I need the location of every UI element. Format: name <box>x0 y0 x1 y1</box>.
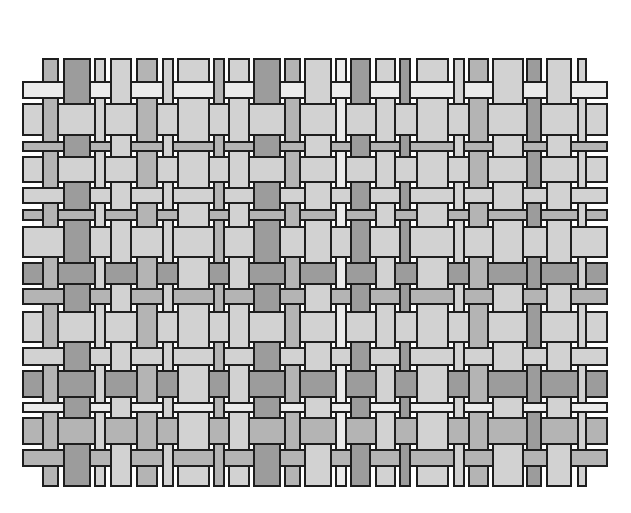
weft-over-crossing <box>374 187 397 204</box>
weft-over-crossing <box>374 402 397 413</box>
weft-over-crossing <box>334 187 348 204</box>
weft-over-crossing <box>545 103 573 136</box>
weft-over-crossing <box>415 347 450 366</box>
weft-over-crossing <box>525 347 543 366</box>
weft-over-crossing <box>212 262 226 285</box>
weft-over-crossing <box>452 156 466 183</box>
weft-over-crossing <box>283 141 302 152</box>
weft-over-crossing <box>283 449 302 467</box>
weft-over-crossing <box>109 156 133 183</box>
weft-over-crossing <box>545 209 573 221</box>
weft-over-crossing <box>41 347 60 366</box>
weft-over-crossing <box>62 103 92 136</box>
weft-over-crossing <box>283 187 302 204</box>
weft-over-crossing <box>545 311 573 343</box>
weft-over-crossing <box>252 262 282 285</box>
weft-over-crossing <box>176 187 211 204</box>
weft-over-crossing <box>176 347 211 366</box>
weft-over-crossing <box>374 141 397 152</box>
weft-over-crossing <box>398 156 412 183</box>
weft-over-crossing <box>374 449 397 467</box>
weft-over-crossing <box>135 288 159 305</box>
weft-over-crossing <box>576 402 588 413</box>
warp-strip <box>228 58 250 487</box>
weft-over-crossing <box>576 187 588 204</box>
weft-over-crossing <box>62 311 92 343</box>
weft-over-crossing <box>283 226 302 258</box>
weft-over-crossing <box>109 209 133 221</box>
warp-strip <box>416 58 449 487</box>
weft-over-crossing <box>491 417 525 445</box>
weft-over-crossing <box>62 417 92 445</box>
weft-over-crossing <box>252 156 282 183</box>
weft-over-crossing <box>452 417 466 445</box>
weft-over-crossing <box>41 288 60 305</box>
weft-over-crossing <box>491 103 525 136</box>
weft-over-crossing <box>398 417 412 445</box>
weft-over-crossing <box>41 226 60 258</box>
weft-over-crossing <box>415 226 450 258</box>
weft-over-crossing <box>135 347 159 366</box>
weft-over-crossing <box>212 311 226 343</box>
weft-over-crossing <box>452 311 466 343</box>
weft-over-crossing <box>525 81 543 99</box>
warp-strip <box>284 58 301 487</box>
weft-over-crossing <box>349 209 372 221</box>
weft-over-crossing <box>135 449 159 467</box>
weft-over-crossing <box>576 288 588 305</box>
weft-over-crossing <box>452 103 466 136</box>
weft-over-crossing <box>303 311 333 343</box>
weft-over-crossing <box>227 81 251 99</box>
weft-over-crossing <box>452 262 466 285</box>
weft-over-crossing <box>525 187 543 204</box>
weft-over-crossing <box>62 156 92 183</box>
weft-over-crossing <box>334 449 348 467</box>
weft-over-crossing <box>283 347 302 366</box>
weft-over-crossing <box>576 81 588 99</box>
weft-over-crossing <box>41 402 60 413</box>
weft-over-crossing <box>227 449 251 467</box>
weft-over-crossing <box>349 417 372 445</box>
weft-over-crossing <box>135 81 159 99</box>
weft-over-crossing <box>176 402 211 413</box>
weft-over-crossing <box>109 262 133 285</box>
warp-strip <box>468 58 489 487</box>
weft-over-crossing <box>176 226 211 258</box>
warp-strip <box>335 58 347 487</box>
weft-over-crossing <box>491 311 525 343</box>
weft-over-crossing <box>303 103 333 136</box>
weft-over-crossing <box>545 156 573 183</box>
weft-over-crossing <box>334 288 348 305</box>
weft-over-crossing <box>349 262 372 285</box>
weft-over-crossing <box>93 81 107 99</box>
weft-over-crossing <box>334 226 348 258</box>
weft-over-crossing <box>467 187 490 204</box>
weft-over-crossing <box>176 141 211 152</box>
weft-over-crossing <box>93 347 107 366</box>
warp-strip <box>94 58 106 487</box>
weft-over-crossing <box>415 449 450 467</box>
weft-over-crossing <box>415 288 450 305</box>
weft-over-crossing <box>467 226 490 258</box>
weft-over-crossing <box>41 449 60 467</box>
weft-over-crossing <box>467 141 490 152</box>
weft-over-crossing <box>161 311 175 343</box>
weft-over-crossing <box>161 103 175 136</box>
weft-over-crossing <box>398 209 412 221</box>
weft-over-crossing <box>303 417 333 445</box>
warp-strip <box>375 58 396 487</box>
weft-over-crossing <box>62 370 92 398</box>
weft-over-crossing <box>398 262 412 285</box>
weft-over-crossing <box>491 370 525 398</box>
warp-strip <box>177 58 210 487</box>
weft-over-crossing <box>212 209 226 221</box>
weft-over-crossing <box>93 288 107 305</box>
weft-over-crossing <box>252 209 282 221</box>
weft-over-crossing <box>303 370 333 398</box>
weft-over-crossing <box>415 187 450 204</box>
weft-over-crossing <box>491 209 525 221</box>
weft-over-crossing <box>374 81 397 99</box>
weft-over-crossing <box>467 81 490 99</box>
weft-over-crossing <box>135 226 159 258</box>
weft-over-crossing <box>467 347 490 366</box>
